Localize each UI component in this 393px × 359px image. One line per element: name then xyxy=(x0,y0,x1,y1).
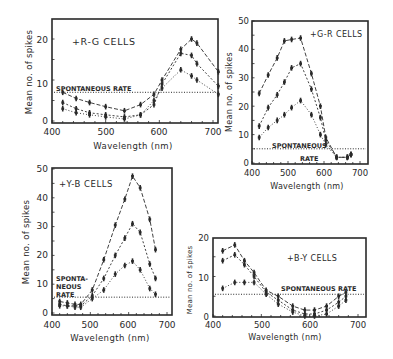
data-point xyxy=(131,223,134,225)
data-point xyxy=(123,110,126,112)
data-point xyxy=(75,108,78,110)
data-point xyxy=(267,126,270,128)
data-point xyxy=(335,156,338,158)
data-point xyxy=(74,306,77,308)
data-point xyxy=(243,260,246,262)
data-point xyxy=(276,57,279,59)
svg-text:50: 50 xyxy=(37,164,49,174)
data-point xyxy=(319,105,322,107)
x-axis-label: Wavelength (nm) xyxy=(248,333,322,342)
rate-label: RATE xyxy=(300,155,318,163)
panel-gr: +G-R CELLS SPONTANEOUS RATE 0 10 20 30 4… xyxy=(225,16,368,191)
plot-area xyxy=(52,36,220,123)
data-point xyxy=(221,287,224,289)
data-point xyxy=(217,93,220,95)
data-point xyxy=(337,305,340,307)
plot-frame xyxy=(213,238,366,317)
x-tick-labels: 400 500 600 700 xyxy=(43,127,221,137)
data-point xyxy=(61,108,64,110)
data-point xyxy=(276,94,279,96)
data-point xyxy=(79,306,82,308)
data-point xyxy=(153,93,156,95)
panel-yb: +Y-B CELLS SPONTA- NEOUS RATE 0 10 20 30… xyxy=(21,164,176,343)
svg-text:500: 500 xyxy=(97,127,114,137)
svg-text:40: 40 xyxy=(37,193,49,203)
series-line-high xyxy=(63,39,219,111)
panel-rg: +R-G CELLS SPONTANEOUS RATE 0 10 20 400 … xyxy=(24,19,222,151)
y-axis-label: Mean no. of spikes xyxy=(21,200,31,285)
data-point xyxy=(337,295,340,297)
data-point xyxy=(291,311,294,313)
svg-text:50: 50 xyxy=(238,16,249,26)
panel-title: +R-G CELLS xyxy=(72,36,136,47)
data-point xyxy=(313,309,316,311)
data-point xyxy=(310,114,313,116)
panel-title: +B-Y CELLS xyxy=(287,254,337,263)
data-point xyxy=(139,231,142,233)
data-point xyxy=(75,112,78,114)
x-tick-labels: 400 500 600 700 xyxy=(244,168,368,178)
svg-text:700: 700 xyxy=(204,127,221,137)
data-point xyxy=(243,263,246,265)
x-tick-labels: 400 500 600 700 xyxy=(205,320,366,330)
svg-text:10: 10 xyxy=(37,79,49,89)
data-point xyxy=(276,119,279,121)
svg-text:700: 700 xyxy=(158,320,175,330)
data-point xyxy=(161,83,164,85)
y-axis-label: Mean no. of spikes xyxy=(225,52,234,132)
data-point xyxy=(75,97,78,99)
data-point xyxy=(123,237,126,239)
spontaneous-label: SPONTANEOUS xyxy=(272,142,327,150)
data-point xyxy=(179,52,182,54)
svg-text:10: 10 xyxy=(238,130,249,140)
data-point xyxy=(154,248,157,250)
y-tick-labels: 0 10 20 xyxy=(37,35,49,126)
data-point xyxy=(154,293,157,295)
spontaneous-label-1: SPONTA- xyxy=(56,275,88,283)
svg-text:600: 600 xyxy=(119,320,136,330)
y-tick-labels: 0 10 20 30 40 50 xyxy=(238,16,249,168)
data-point xyxy=(148,287,151,289)
data-point xyxy=(161,87,164,89)
data-point xyxy=(325,305,328,307)
data-point xyxy=(139,187,142,189)
data-point xyxy=(325,313,328,315)
data-point xyxy=(190,54,193,56)
data-point xyxy=(283,81,286,83)
data-point xyxy=(221,250,224,252)
data-point xyxy=(217,71,220,73)
data-point xyxy=(61,101,64,103)
data-point xyxy=(196,62,199,64)
data-point xyxy=(345,295,348,297)
svg-text:0: 0 xyxy=(42,116,48,126)
data-point xyxy=(258,125,261,127)
data-point xyxy=(290,38,293,40)
data-point xyxy=(217,85,220,87)
data-point xyxy=(277,299,280,301)
data-point xyxy=(148,263,151,265)
data-point xyxy=(253,275,256,277)
figure: +R-G CELLS SPONTANEOUS RATE 0 10 20 400 … xyxy=(0,0,393,359)
svg-text:700: 700 xyxy=(352,168,368,178)
data-point xyxy=(139,103,142,105)
data-point xyxy=(290,67,293,69)
svg-text:400: 400 xyxy=(205,320,221,330)
data-point xyxy=(104,116,107,118)
svg-text:20: 20 xyxy=(37,35,49,45)
data-point xyxy=(258,92,261,94)
svg-text:0: 0 xyxy=(42,308,48,318)
data-point xyxy=(299,99,302,101)
data-point xyxy=(337,301,340,303)
data-point xyxy=(123,264,126,266)
data-point xyxy=(258,136,261,138)
data-point xyxy=(114,273,117,275)
figure-svg: +R-G CELLS SPONTANEOUS RATE 0 10 20 400 … xyxy=(0,0,393,359)
data-point xyxy=(291,305,294,307)
data-point xyxy=(303,309,306,311)
svg-text:40: 40 xyxy=(238,44,249,54)
data-point xyxy=(196,42,199,44)
data-point xyxy=(350,153,353,155)
spontaneous-rate-label: SPONTANEOUS RATE xyxy=(281,285,356,293)
data-point xyxy=(161,79,164,81)
svg-text:400: 400 xyxy=(43,320,60,330)
